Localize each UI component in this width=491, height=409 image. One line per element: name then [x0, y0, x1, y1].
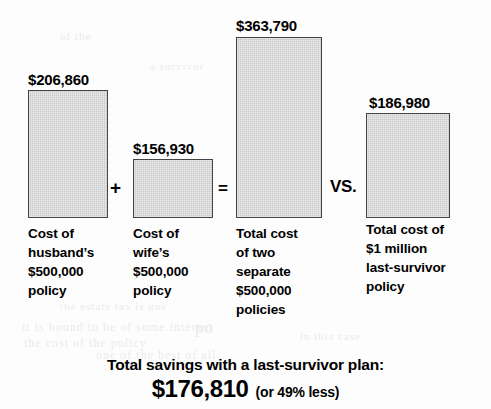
equals-operator: =: [218, 180, 228, 197]
bar-caption-husband-policy: Cost of husband’s $500,000 policy: [28, 224, 132, 300]
summary-amount: $176,810: [152, 375, 249, 402]
bar-value-label-wife-policy: $156,930: [133, 141, 194, 157]
bar-caption-wife-policy: Cost of wife’s $500,000 policy: [133, 224, 233, 300]
bar-husband-policy: [28, 90, 108, 218]
bar-last-survivor-policy: [366, 113, 450, 218]
bar-value-label-last-survivor-policy: $186,980: [369, 95, 430, 111]
summary-amount-row: $176,810(or 49% less): [0, 376, 491, 405]
summary-note: (or 49% less): [256, 384, 340, 400]
bar-wife-policy: [133, 159, 213, 218]
bar-value-label-husband-policy: $206,860: [28, 72, 89, 88]
versus-operator: VS.: [330, 178, 357, 195]
summary-headline: Total savings with a last-survivor plan:: [0, 356, 491, 374]
plus-operator: +: [110, 178, 121, 197]
bar-value-label-two-separate-policies: $363,790: [236, 18, 297, 34]
bar-caption-two-separate-policies: Total cost of two separate $500,000 poli…: [236, 224, 346, 319]
plot-area: $206,860 Cost of husband’s $500,000 poli…: [0, 0, 491, 409]
bar-two-separate-policies: [236, 37, 322, 218]
bar-caption-last-survivor-policy: Total cost of $1 million last-survivor p…: [366, 220, 491, 296]
bar-chart: poit is bound to be of some interestthe …: [0, 0, 491, 409]
